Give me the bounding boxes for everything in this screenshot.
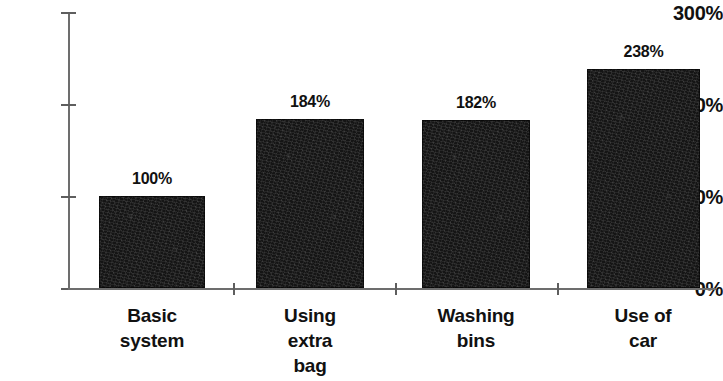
category-label-use-of-car: Use of car <box>583 303 703 353</box>
bar-chart: 300% 200% 100% 0% 100% 184% 182% 238% Ba… <box>0 0 723 381</box>
y-axis-line <box>68 12 70 289</box>
bar-basic-system <box>99 196 205 288</box>
y-axis-label-300: 300% <box>665 3 723 23</box>
bar-using-extra-bag <box>256 119 364 288</box>
x-axis-line <box>68 288 716 290</box>
bar-use-of-car <box>587 69 700 288</box>
y-axis-tick-200 <box>61 104 76 106</box>
category-line: car <box>583 328 703 353</box>
category-line: bag <box>250 353 370 378</box>
bar-washing-bins <box>422 120 530 288</box>
value-label-using-extra-bag: 184% <box>256 94 364 110</box>
category-line: bins <box>414 328 538 353</box>
category-line: Basic <box>92 303 212 328</box>
category-label-washing-bins: Washing bins <box>414 303 538 353</box>
category-line: extra <box>250 328 370 353</box>
x-axis-tick-2 <box>395 283 397 295</box>
category-line: Use of <box>583 303 703 328</box>
value-label-basic-system: 100% <box>99 171 205 187</box>
x-axis-tick-3 <box>557 283 559 295</box>
category-line: Using <box>250 303 370 328</box>
category-label-basic-system: Basic system <box>92 303 212 353</box>
x-axis-tick-1 <box>233 283 235 295</box>
y-axis-tick-100 <box>61 196 76 198</box>
category-line: Washing <box>414 303 538 328</box>
value-label-use-of-car: 238% <box>587 44 700 60</box>
category-label-using-extra-bag: Using extra bag <box>250 303 370 378</box>
category-line: system <box>92 328 212 353</box>
y-axis-tick-300 <box>61 12 76 14</box>
value-label-washing-bins: 182% <box>422 95 530 111</box>
